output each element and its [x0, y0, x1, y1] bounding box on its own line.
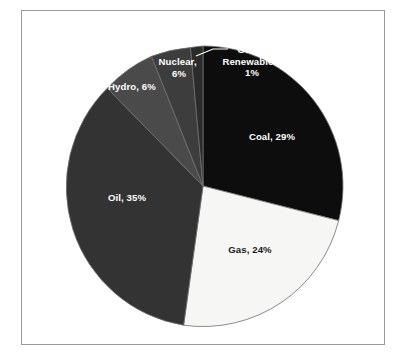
pie-label-hydro: Hydro, 6% — [108, 81, 156, 92]
pie-label-other-renewables-line-1: Other — [238, 44, 264, 55]
pie-label-other-renewables-line-3: 1% — [245, 67, 259, 78]
pie-chart-canvas: Coal, 29% Gas, 24% Oil, 35% Hydro, 6% Nu… — [0, 0, 406, 360]
pie-label-nuclear-line-1: Nuclear, — [159, 56, 197, 67]
pie-label-gas: Gas, 24% — [228, 244, 272, 255]
pie-label-oil: Oil, 35% — [108, 192, 146, 203]
pie-label-other-renewables-line-2: Renewables — [222, 56, 278, 67]
pie-label-nuclear-line-2: 6% — [172, 68, 186, 79]
pie-chart-figure: Coal, 29% Gas, 24% Oil, 35% Hydro, 6% Nu… — [0, 0, 406, 360]
pie-label-coal: Coal, 29% — [249, 131, 296, 142]
